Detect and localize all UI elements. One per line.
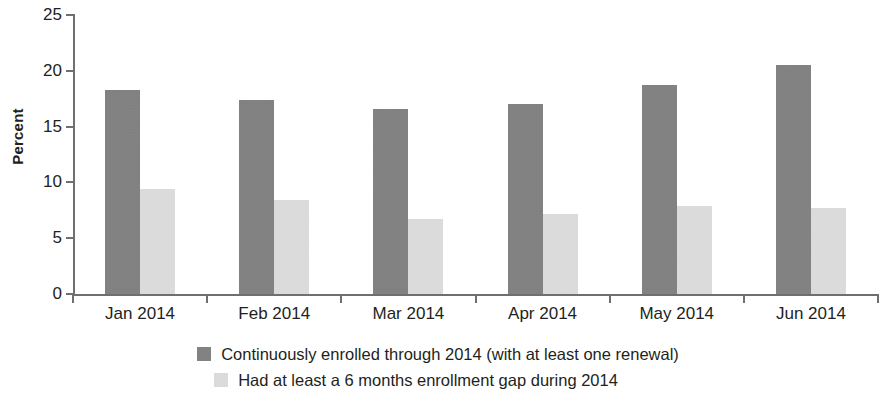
x-axis-tick: [340, 294, 342, 303]
bar-enrollment-gap: [408, 219, 443, 294]
legend-entry-continuously-enrolled: Continuously enrolled through 2014 (with…: [0, 341, 880, 367]
legend-label-continuously-enrolled: Continuously enrolled through 2014 (with…: [221, 344, 679, 364]
x-axis-category-label: Feb 2014: [204, 303, 344, 324]
bar-continuously-enrolled: [105, 90, 140, 294]
bar-continuously-enrolled: [642, 85, 677, 294]
bar-continuously-enrolled: [239, 100, 274, 294]
bar-enrollment-gap: [543, 214, 578, 294]
x-axis-category-label: Jan 2014: [70, 303, 210, 324]
x-axis-tick: [206, 294, 208, 303]
x-axis-tick: [72, 294, 74, 303]
x-axis-category-label: Mar 2014: [338, 303, 478, 324]
legend-swatch-light-icon: [214, 373, 228, 387]
bar-continuously-enrolled: [508, 104, 543, 294]
bar-enrollment-gap: [811, 208, 846, 294]
x-axis-category-label: Jun 2014: [741, 303, 880, 324]
bar-chart: Percent 0510152025 Jan 2014Feb 2014Mar 2…: [0, 0, 880, 402]
legend-entry-enrollment-gap: Had at least a 6 months enrollment gap d…: [0, 367, 880, 393]
bar-enrollment-gap: [677, 206, 712, 294]
plot-area: [0, 0, 880, 294]
x-axis-category-label: May 2014: [607, 303, 747, 324]
bar-continuously-enrolled: [373, 109, 408, 294]
legend-label-enrollment-gap: Had at least a 6 months enrollment gap d…: [238, 370, 618, 390]
x-axis-category-label: Apr 2014: [473, 303, 613, 324]
x-axis-tick: [609, 294, 611, 303]
legend-swatch-dark-icon: [197, 347, 211, 361]
x-axis-tick: [475, 294, 477, 303]
chart-legend: Continuously enrolled through 2014 (with…: [0, 341, 880, 393]
x-axis-tick: [877, 294, 879, 303]
bar-enrollment-gap: [140, 189, 175, 294]
x-axis-tick: [743, 294, 745, 303]
bar-continuously-enrolled: [776, 65, 811, 294]
bar-enrollment-gap: [274, 200, 309, 294]
